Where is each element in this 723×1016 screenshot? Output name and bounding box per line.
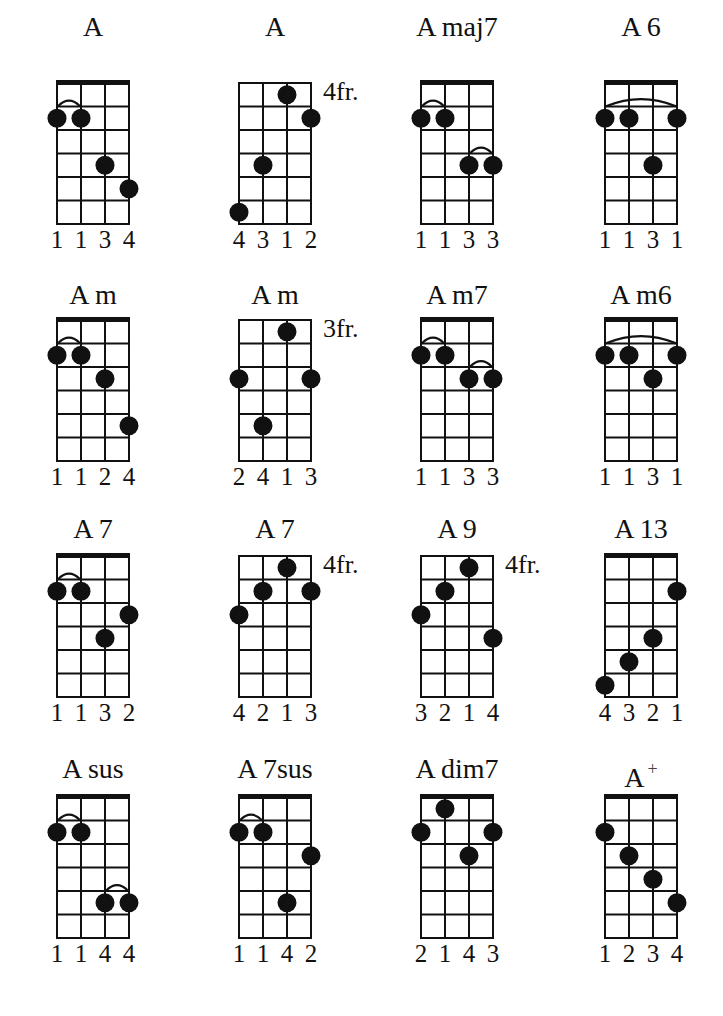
finger-number: 1 [45,226,69,254]
finger-number: 1 [665,463,689,491]
finger-number: 2 [227,463,251,491]
finger-number: 3 [457,226,481,254]
finger-number: 1 [409,463,433,491]
finger-dot [278,85,297,104]
chord-diagram: A 134321 [580,512,723,752]
finger-dot [596,109,615,128]
finger-number: 2 [433,699,457,727]
finger-number: 4 [117,940,141,968]
finger-dot [302,369,321,388]
finger-number: 3 [641,226,665,254]
finger-dot [120,179,139,198]
finger-number: 3 [641,463,665,491]
finger-number: 3 [299,463,323,491]
finger-dot [412,109,431,128]
nut [56,317,130,322]
finger-dot [460,846,479,865]
finger-dot [302,846,321,865]
finger-number: 4 [227,699,251,727]
finger-number: 3 [641,940,665,968]
barre-arc [470,148,492,154]
finger-dot [96,629,115,648]
barre-arc [470,361,492,367]
finger-number: 4 [251,463,275,491]
finger-number: 2 [251,699,275,727]
nut [604,317,678,322]
barre-arc [240,815,262,821]
finger-number: 1 [69,940,93,968]
finger-number: 4 [481,699,505,727]
finger-number: 1 [617,463,641,491]
finger-number: 3 [93,226,117,254]
finger-dot [484,629,503,648]
nut [420,794,494,799]
finger-dot [302,109,321,128]
finger-dot [254,416,273,435]
finger-number: 1 [457,699,481,727]
finger-dot [436,799,455,818]
finger-dot [230,605,249,624]
chord-diagram: A 61131 [580,10,723,250]
chord-diagram: A 94fr.3214 [396,512,566,752]
finger-number: 3 [481,940,505,968]
finger-number: 3 [481,226,505,254]
finger-number: 2 [299,940,323,968]
nut [56,80,130,85]
finger-dot [120,605,139,624]
finger-number: 3 [409,699,433,727]
finger-dot [230,823,249,842]
chord-diagram: A dim72143 [396,752,566,992]
finger-number: 4 [457,940,481,968]
finger-dot [620,846,639,865]
finger-dot [72,823,91,842]
fret-position-label: 3fr. [323,314,358,344]
fretboard-grid [396,10,566,250]
finger-number: 1 [227,940,251,968]
chord-diagram: A m71133 [396,278,566,518]
finger-number: 4 [665,940,689,968]
finger-dot [460,156,479,175]
finger-number: 2 [617,940,641,968]
barre-arc [58,338,80,344]
finger-dot [620,346,639,365]
chord-diagram: A 71132 [32,512,202,752]
nut [420,317,494,322]
finger-number: 2 [299,226,323,254]
chord-diagram: A+1234 [580,752,723,992]
finger-dot [48,346,67,365]
finger-dot [596,346,615,365]
fret-position-label: 4fr. [505,550,540,580]
finger-number: 1 [593,940,617,968]
finger-dot [120,893,139,912]
finger-dot [436,109,455,128]
finger-dot [620,109,639,128]
finger-dot [460,369,479,388]
finger-dot [254,156,273,175]
fret-position-label: 4fr. [323,550,358,580]
finger-number: 1 [665,226,689,254]
finger-number: 2 [93,463,117,491]
finger-dot [72,346,91,365]
finger-dot [668,893,687,912]
finger-dot [412,823,431,842]
nut [604,794,678,799]
finger-number: 1 [275,226,299,254]
finger-dot [48,823,67,842]
finger-number: 1 [45,940,69,968]
finger-number: 4 [275,940,299,968]
finger-dot [302,582,321,601]
fretboard-grid [580,10,723,250]
finger-dot [120,416,139,435]
finger-dot [596,676,615,695]
finger-number: 1 [409,226,433,254]
finger-dot [48,109,67,128]
finger-number: 1 [45,699,69,727]
finger-dot [484,156,503,175]
finger-number: 4 [227,226,251,254]
chord-diagram: A 74fr.4213 [214,512,384,752]
finger-dot [620,652,639,671]
finger-number: 1 [593,226,617,254]
finger-dot [254,582,273,601]
finger-number: 3 [299,699,323,727]
finger-dot [596,823,615,842]
